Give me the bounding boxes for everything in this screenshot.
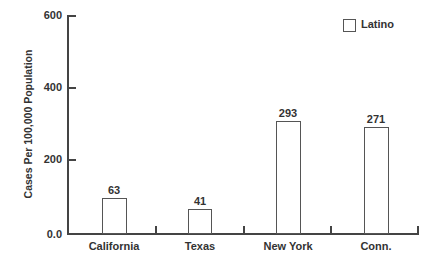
x-tick (155, 226, 157, 234)
legend-label-latino: Latino (361, 18, 394, 30)
value-label-conn: 271 (356, 113, 396, 125)
legend-swatch-latino (343, 19, 356, 32)
y-tick-label-400: 400 (26, 81, 62, 93)
y-tick-label-200: 200 (26, 153, 62, 165)
y-tick-label-0: 0.0 (26, 228, 62, 240)
x-tick (243, 226, 245, 234)
category-label-new-york: New York (248, 240, 328, 252)
bar-conn (364, 127, 389, 234)
bar-california (102, 198, 127, 234)
bar-new-york (276, 121, 301, 234)
category-label-texas: Texas (160, 240, 240, 252)
y-axis-title: Cases Per 100,000 Population (22, 24, 34, 224)
x-tick (417, 226, 419, 234)
y-axis (67, 15, 69, 234)
y-tick-200 (67, 159, 76, 161)
bar-texas (188, 209, 212, 234)
value-label-california: 63 (94, 184, 134, 196)
y-tick-400 (67, 87, 76, 89)
y-tick-600 (67, 15, 76, 17)
category-label-california: California (74, 240, 154, 252)
x-tick (330, 226, 332, 234)
y-tick-label-600: 600 (26, 9, 62, 21)
value-label-new-york: 293 (268, 107, 308, 119)
value-label-texas: 41 (180, 195, 220, 207)
category-label-conn: Conn. (336, 240, 416, 252)
